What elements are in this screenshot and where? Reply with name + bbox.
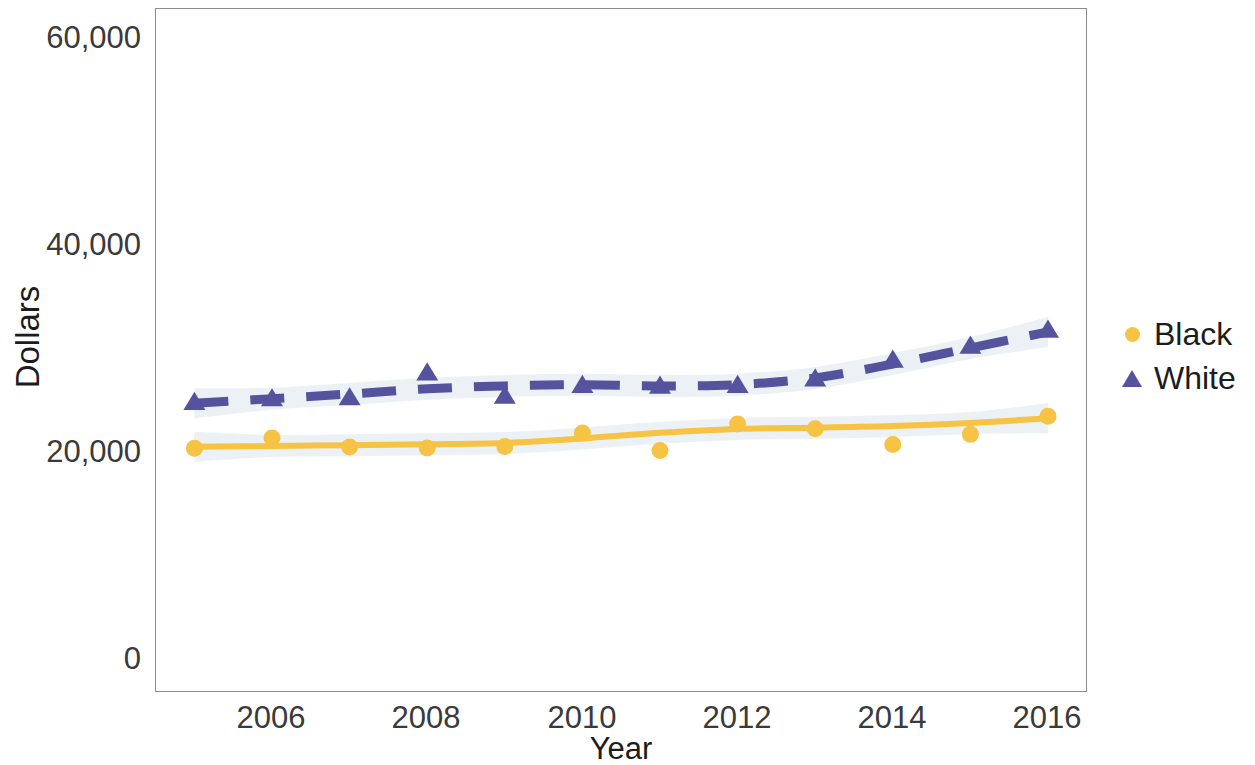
y-tick-label: 40,000 [5,227,155,263]
legend-label: Black [1154,316,1232,353]
legend-label: White [1154,360,1236,397]
circle-marker-icon [1117,319,1147,349]
data-point-circle [419,440,436,457]
legend-item-white[interactable]: White [1117,356,1255,400]
plot-area [155,8,1087,692]
data-point-circle [574,425,591,442]
chart-figure: Dollars 60,000 40,000 20,000 0 2006 2008… [0,0,1255,765]
confidence-band [194,403,1048,461]
data-point-circle [962,426,979,443]
x-axis-title: Year [155,731,1087,765]
plot-canvas [156,9,1086,691]
data-point-circle [884,436,901,453]
triangle-marker-icon [1117,363,1147,393]
data-point-circle [1040,408,1057,425]
data-point-circle [729,416,746,433]
y-tick-label: 0 [5,641,155,677]
data-point-circle [264,429,281,446]
data-point-triangle [416,362,438,380]
chart-legend: Black White [1117,312,1255,400]
data-point-circle [652,442,669,459]
data-point-circle [807,420,824,437]
confidence-bands [194,317,1048,462]
data-point-circle [341,439,358,456]
y-tick-label: 20,000 [5,434,155,470]
y-axis-title: Dollars [9,257,47,417]
confidence-band [194,317,1048,418]
legend-item-black[interactable]: Black [1117,312,1255,356]
y-tick-label: 60,000 [5,20,155,56]
data-point-circle [496,438,513,455]
data-point-circle [186,440,203,457]
